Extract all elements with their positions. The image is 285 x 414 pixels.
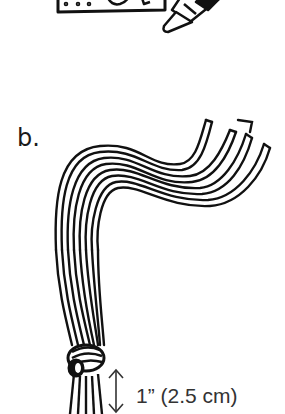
tassel bbox=[70, 374, 102, 414]
step-label: b. bbox=[17, 124, 40, 152]
knot-icon bbox=[68, 345, 104, 376]
measurement-label: 1” (2.5 cm) bbox=[136, 384, 238, 408]
illustration-canvas bbox=[0, 0, 285, 414]
double-arrow-icon bbox=[109, 370, 123, 412]
card-icon bbox=[58, 0, 165, 12]
cord-bundle bbox=[56, 120, 270, 345]
crayon-icon bbox=[164, 0, 221, 32]
